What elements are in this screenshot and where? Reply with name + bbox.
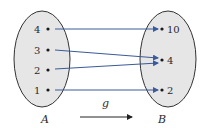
dot-a-2: [46, 68, 49, 71]
svg-text:4: 4: [167, 55, 173, 66]
svg-text:2: 2: [34, 65, 40, 76]
svg-text:4: 4: [34, 24, 40, 35]
dot-b-2: [160, 88, 163, 91]
set-b-label: B: [157, 113, 166, 126]
svg-text:10: 10: [167, 24, 180, 35]
set-a-label: A: [40, 113, 49, 126]
svg-text:3: 3: [34, 45, 40, 56]
function-label: g: [102, 97, 109, 110]
dot-b-10: [160, 27, 163, 30]
dot-b-4: [160, 58, 163, 61]
dot-a-4: [46, 27, 49, 30]
svg-text:1: 1: [34, 85, 40, 96]
dot-a-1: [46, 88, 49, 91]
set-a-ellipse: [14, 11, 70, 107]
svg-text:2: 2: [167, 85, 173, 96]
dot-a-3: [46, 48, 49, 51]
function-diagram: 4 3 2 1 10 4 2 A B g: [0, 0, 206, 128]
